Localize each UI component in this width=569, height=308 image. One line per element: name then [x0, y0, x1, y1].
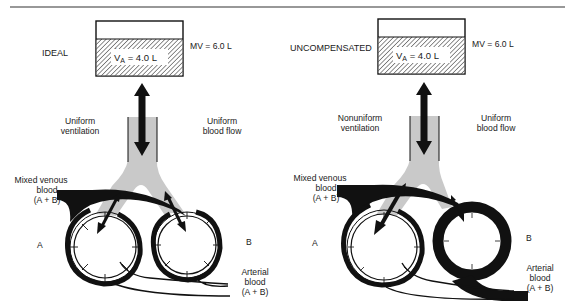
- ventilation-tank: VA = 4.0 L ·: [96, 21, 183, 76]
- blood-flow-label: Uniformblood flow: [477, 113, 516, 133]
- diagram-canvas: VA = 4.0 L · IDEAL MV = 6.0 L Uniformven…: [0, 0, 569, 308]
- arterial-label: Arterialblood(A + B): [241, 267, 268, 297]
- panel-uncompensated: VA = 4.0 L · UNCOMPENSATED MV = 6.0 L No…: [290, 19, 554, 301]
- panel-ideal: VA = 4.0 L · IDEAL MV = 6.0 L Uniformven…: [14, 21, 268, 297]
- unit-b-label: B: [246, 237, 252, 247]
- unit-a-label: A: [312, 238, 318, 248]
- panel-title: UNCOMPENSATED: [290, 43, 372, 53]
- svg-text:·: ·: [115, 45, 117, 52]
- svg-text:·: ·: [397, 43, 399, 50]
- minute-volume-label: MV = 6.0 L: [190, 41, 232, 51]
- alveolus-b: [438, 207, 528, 301]
- ventilation-tank: VA = 4.0 L ·: [378, 19, 465, 74]
- arterial-label: Arterialblood(A + B): [526, 263, 553, 293]
- alveolus-b: [153, 212, 220, 280]
- ventilation-label: Nonuniformventilation: [338, 113, 382, 133]
- unit-b-label: B: [526, 233, 532, 243]
- ventilation-label: Uniformventilation: [61, 116, 100, 136]
- unit-a-label: A: [37, 240, 43, 250]
- panel-title: IDEAL: [42, 48, 68, 58]
- airway: [376, 116, 452, 217]
- minute-volume-label: MV = 6.0 L: [472, 39, 514, 49]
- blood-flow-label: Uniformblood flow: [203, 116, 242, 136]
